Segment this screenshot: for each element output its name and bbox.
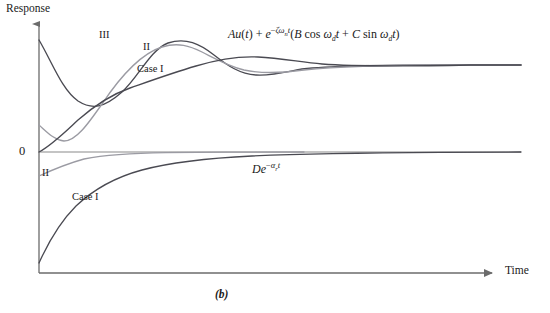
eq-top-part-13: C [352,27,360,41]
eq-top-part-14: sin [360,27,380,41]
curve-label-case-iii: III [99,29,110,40]
curve-label-case-ii-lower: II [42,167,49,178]
eq-top-part-1: Au [228,27,241,41]
eq-top-exponent: −ζωnt [271,25,290,35]
panel-caption: (b) [215,288,228,300]
equation-underdamped-response: Au(t) + e−ζωnt(B cos ωdt + C sin ωdt) [228,25,400,43]
y-axis-label: Response [6,2,50,14]
curve-label-case-i-lower: Case I [72,191,99,202]
curve-label-case-i-upper: Case I [137,63,164,74]
figure-container: Response 0 Time (b) III II Case I II Cas… [0,0,550,313]
eq-bottom-part-1: De [252,162,266,176]
eq-top-part-4: ) + [249,27,266,41]
eq-top-part-7: B [294,27,301,41]
x-axis-label: Time [505,264,529,276]
eq-top-part-8: cos [302,27,324,41]
curve-label-case-ii-upper: II [143,41,150,52]
response-plot-svg [0,0,550,313]
eq-bottom-exp-t: t [278,160,280,170]
equation-exponential-term: De−αrt [252,160,280,177]
origin-zero-label: 0 [19,144,25,159]
curve-case-i-upper [39,57,521,152]
eq-top-part-12: + [339,27,352,41]
eq-bottom-exponent: −αrt [266,160,280,170]
eq-top-part-9: ω [324,27,332,41]
eq-top-part-18: ) [396,27,400,41]
